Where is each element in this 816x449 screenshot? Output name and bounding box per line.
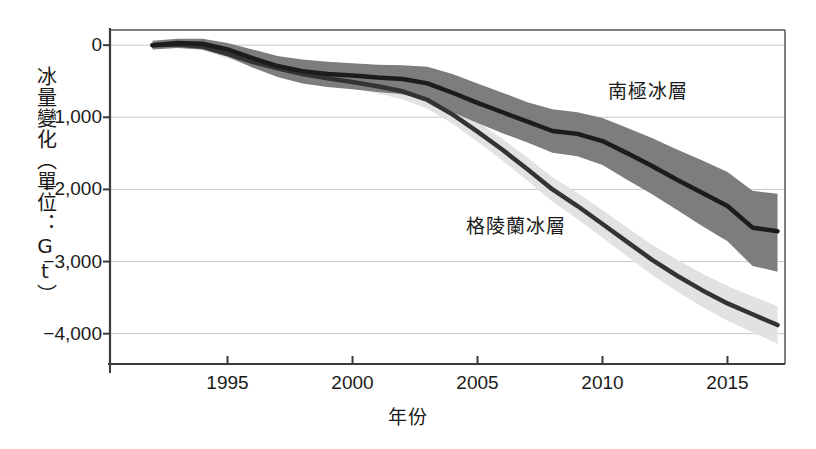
x-axis-title: 年份 bbox=[0, 402, 816, 429]
y-tick-label: −3,000 bbox=[6, 251, 102, 273]
series-label-antarctic: 南極冰層 bbox=[608, 76, 688, 103]
y-tick-label: −4,000 bbox=[6, 323, 102, 345]
x-tick-label: 1995 bbox=[193, 372, 263, 394]
uncertainty-band bbox=[153, 39, 778, 272]
series-label-greenland: 格陵蘭冰層 bbox=[466, 211, 566, 238]
chart-container: 冰量變化（單位：Gt） 年份 南極冰層 格陵蘭冰層 0−1,000−2,000−… bbox=[0, 0, 816, 449]
x-tick-label: 2005 bbox=[443, 372, 513, 394]
x-tick-label: 2000 bbox=[318, 372, 388, 394]
y-tick-label: −1,000 bbox=[6, 106, 102, 128]
x-tick-label: 2010 bbox=[568, 372, 638, 394]
y-tick-label: 0 bbox=[6, 34, 102, 56]
x-tick-label: 2015 bbox=[693, 372, 763, 394]
y-tick-label: −2,000 bbox=[6, 178, 102, 200]
